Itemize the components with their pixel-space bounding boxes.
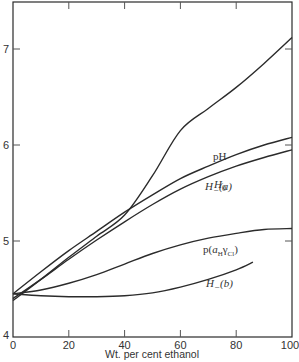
x-tick-label: 0 (10, 339, 16, 351)
curve-h-a- (13, 137, 292, 293)
curves (13, 37, 292, 300)
y-tick-label: 5 (3, 235, 9, 247)
y-tick-label: 7 (3, 43, 9, 55)
y-tick-label: 4 (3, 329, 9, 341)
x-axis-label: Wt. per cent ethanol (105, 348, 199, 360)
y-tick-label: 6 (3, 139, 9, 151)
curve-h-0 (13, 150, 292, 299)
label-p-aH-gammaCl: p(aHγCl) (203, 243, 238, 258)
label-pa-suffix: ) (234, 243, 238, 256)
label-H-minus-b-suffix: (b) (220, 277, 233, 290)
x-axis-ticks: 020406080100 (10, 2, 299, 351)
label-pa-prefix: p( (203, 243, 213, 256)
x-tick-label: 20 (63, 339, 75, 351)
label-pH: pH (213, 150, 227, 162)
label-H-minus-b: H−(b) (205, 277, 233, 292)
chart: 020406080100 4567 Wt. per cent ethanol p… (0, 0, 299, 362)
label-H-zero-sub: 0 (222, 184, 226, 193)
x-tick-label: 100 (281, 339, 299, 351)
x-tick-label: 80 (230, 339, 242, 351)
